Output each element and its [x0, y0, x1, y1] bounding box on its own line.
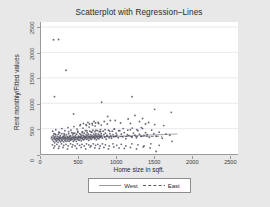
x-tick-label: 2500: [224, 159, 236, 165]
plot-area: [40, 22, 238, 155]
chart-screenshot: Scatterplot with Regression–Lines Rent m…: [0, 0, 270, 207]
y-tick-label: 1000: [29, 98, 35, 110]
legend[interactable]: West East: [88, 178, 191, 193]
y-tick-mark: [37, 78, 40, 79]
y-tick-mark: [37, 27, 40, 28]
x-tick-label: 1500: [148, 159, 160, 165]
x-tick-label: 2000: [186, 159, 198, 165]
x-tick-label: 0: [38, 159, 41, 165]
legend-label-east: East: [168, 183, 180, 189]
legend-entry-west: West: [99, 183, 138, 189]
y-tick-label: 2500: [29, 22, 35, 34]
y-tick-label: 500: [29, 127, 35, 136]
y-axis-title: Rent monthly/Fitted values: [13, 54, 20, 130]
chart-title: Scatterplot with Regression–Lines: [40, 8, 238, 17]
y-tick-mark: [37, 129, 40, 130]
x-tick-label: 500: [73, 159, 82, 165]
y-tick-mark: [37, 155, 40, 156]
legend-swatch-east: [143, 183, 165, 188]
y-tick-label: 0: [29, 159, 35, 162]
x-axis-title: Home size in sqft.: [40, 166, 238, 173]
y-tick-label: 1500: [29, 73, 35, 85]
x-tick-label: 1000: [110, 159, 122, 165]
legend-swatch-west: [99, 183, 121, 188]
y-tick-mark: [37, 53, 40, 54]
scatter-points: [41, 22, 238, 154]
legend-entry-east: East: [143, 183, 180, 189]
legend-label-west: West: [124, 183, 138, 189]
y-tick-mark: [37, 104, 40, 105]
y-tick-label: 2000: [29, 47, 35, 59]
